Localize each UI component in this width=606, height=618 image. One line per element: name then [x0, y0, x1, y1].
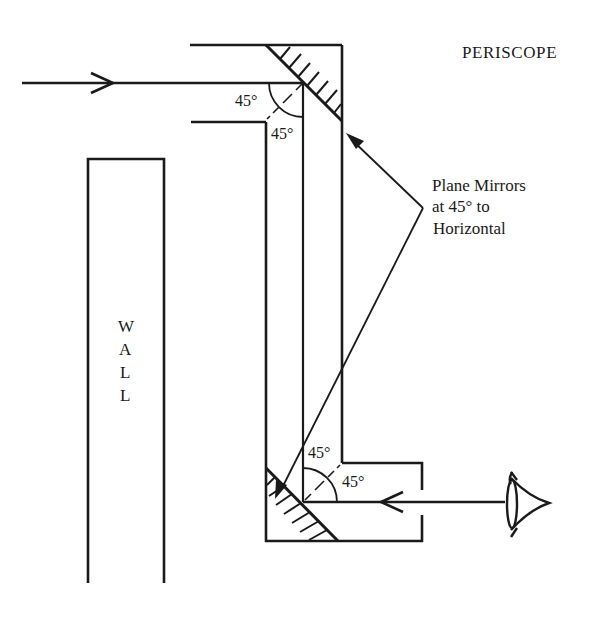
- angle-label-bottom-right: 45°: [342, 473, 364, 490]
- svg-text:W: W: [118, 317, 135, 336]
- periscope-title: PERISCOPE: [462, 43, 557, 62]
- light-ray: [22, 83, 505, 502]
- wall-label: W A L L: [118, 317, 135, 405]
- angle-labels: 45° 45° 45° 45°: [235, 92, 364, 490]
- periscope-diagram: PERISCOPE W A L L Plane Mirrors at 45° t…: [0, 0, 606, 618]
- svg-text:at 45° to: at 45° to: [432, 197, 490, 216]
- svg-text:Plane Mirrors: Plane Mirrors: [432, 176, 526, 195]
- svg-text:L: L: [120, 363, 130, 382]
- eye-icon: [507, 472, 549, 537]
- svg-text:Horizontal: Horizontal: [433, 219, 506, 238]
- svg-text:L: L: [120, 386, 130, 405]
- angle-label-top-left: 45°: [235, 92, 257, 109]
- angle-label-top-below: 45°: [271, 125, 293, 142]
- svg-text:A: A: [119, 340, 132, 359]
- angle-label-bottom-above: 45°: [308, 444, 330, 461]
- mirror-annotation: Plane Mirrors at 45° to Horizontal: [432, 176, 526, 238]
